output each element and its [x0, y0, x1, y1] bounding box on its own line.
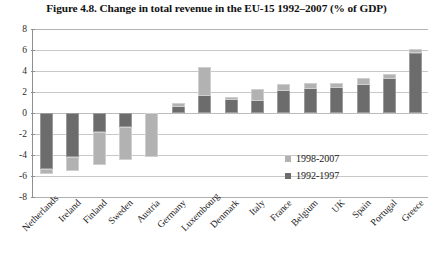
light-gray-swatch-icon	[285, 156, 291, 162]
bar-segment-1998-2007	[330, 83, 343, 88]
y-axis-tick-label: 4	[22, 66, 27, 76]
y-axis-tick-label: 6	[22, 45, 27, 55]
bar-group	[251, 29, 264, 197]
bar-segment-1998-2007	[409, 49, 422, 53]
bar-group	[145, 29, 158, 197]
bar-segment-1992-1997	[409, 53, 422, 113]
y-axis-tick-label: 2	[22, 87, 27, 97]
y-axis-tick	[31, 92, 35, 93]
bar-segment-1998-2007	[40, 169, 53, 174]
figure-title: Figure 4.8. Change in total revenue in t…	[0, 2, 433, 14]
bar-segment-1998-2007	[251, 89, 264, 102]
y-axis-tick	[31, 176, 35, 177]
bar-segment-1998-2007	[119, 127, 132, 161]
bar-segment-1998-2007	[357, 78, 370, 84]
y-axis-tick	[31, 50, 35, 51]
bar-segment-1998-2007	[66, 157, 79, 171]
bar-segment-1992-1997	[66, 113, 79, 157]
y-axis-tick	[31, 155, 35, 156]
bar-group	[93, 29, 106, 197]
y-axis-tick-label: -8	[19, 192, 27, 202]
y-axis-tick-label: -4	[19, 150, 27, 160]
y-axis-tick	[31, 113, 35, 114]
bar-group	[119, 29, 132, 197]
legend-item: 1992-1997	[285, 167, 395, 184]
bar-group	[40, 29, 53, 197]
figure-container: Figure 4.8. Change in total revenue in t…	[0, 0, 433, 268]
y-axis-tick	[31, 134, 35, 135]
bar-group	[172, 29, 185, 197]
chart-legend: 1998-2007 1992-1997	[285, 150, 395, 184]
legend-label: 1998-2007	[296, 153, 339, 164]
y-axis-tick	[31, 29, 35, 30]
y-axis-tick-label: -2	[19, 129, 27, 139]
x-axis-labels-group: NetherlandsIrelandFinlandSwedenAustriaGe…	[32, 197, 428, 268]
bar-segment-1998-2007	[383, 74, 396, 79]
y-axis-tick-label: -6	[19, 171, 27, 181]
bar-segment-1998-2007	[198, 67, 211, 96]
bar-segment-1992-1997	[93, 113, 106, 132]
bar-segment-1998-2007	[93, 132, 106, 166]
bar-group	[66, 29, 79, 197]
legend-item: 1998-2007	[285, 150, 395, 167]
bar-group	[198, 29, 211, 197]
y-axis-tick-label: 0	[22, 108, 27, 118]
dark-gray-swatch-icon	[285, 173, 291, 179]
y-axis-tick	[31, 71, 35, 72]
bar-segment-1998-2007	[172, 103, 185, 107]
legend-label: 1992-1997	[296, 170, 339, 181]
bar-segment-1998-2007	[145, 113, 158, 157]
bar-group	[409, 29, 422, 197]
y-axis-tick-label: 8	[22, 24, 27, 34]
bar-segment-1992-1997	[119, 113, 132, 127]
bar-segment-1992-1997	[40, 113, 53, 169]
bar-segment-1992-1997	[383, 74, 396, 113]
bar-group	[225, 29, 238, 197]
bar-segment-1998-2007	[225, 97, 238, 100]
bar-segment-1998-2007	[277, 84, 290, 91]
bar-segment-1998-2007	[304, 83, 317, 89]
